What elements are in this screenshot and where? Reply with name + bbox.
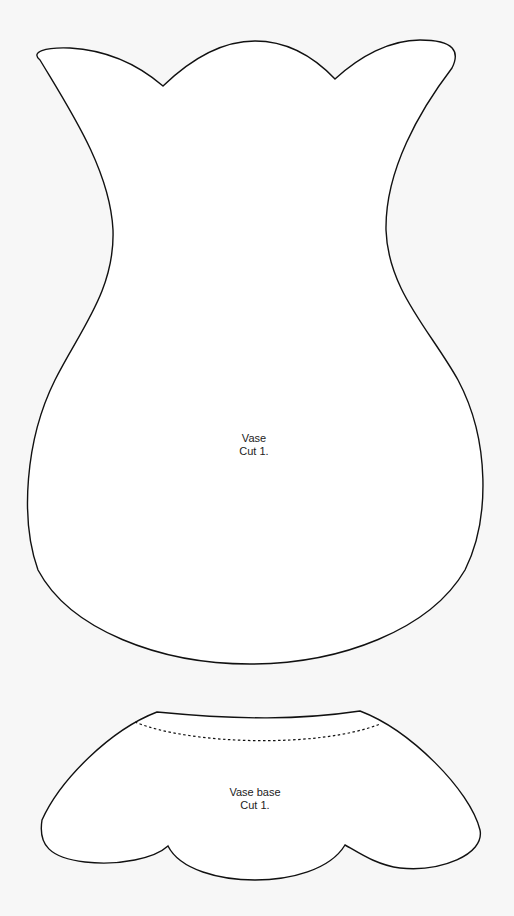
vase-label: Vase Cut 1.	[194, 432, 314, 458]
vase-outline	[28, 40, 483, 664]
vase-base-label: Vase base Cut 1.	[195, 786, 315, 812]
pattern-canvas	[0, 0, 514, 916]
vase-piece-name: Vase	[194, 432, 314, 445]
vase-cut-instruction: Cut 1.	[194, 445, 314, 458]
vase-base-cut-instruction: Cut 1.	[195, 799, 315, 812]
vase-base-piece-name: Vase base	[195, 786, 315, 799]
